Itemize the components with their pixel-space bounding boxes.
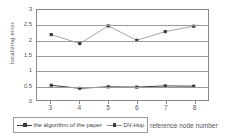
chart-legend: the algorithm of the paper DV-Hop bbox=[13, 117, 148, 133]
gridline bbox=[37, 87, 208, 88]
data-point-marker bbox=[164, 30, 167, 33]
y-tick-label: 1.5 bbox=[16, 52, 32, 58]
legend-item-dvhop: DV-Hop bbox=[107, 122, 145, 129]
gridline bbox=[37, 56, 208, 57]
gridline bbox=[37, 71, 208, 72]
x-tick-label: 6 bbox=[130, 104, 144, 112]
legend-marker-icon-paper bbox=[17, 122, 32, 129]
data-point-marker bbox=[50, 33, 53, 36]
y-tick-label: 2.5 bbox=[16, 21, 32, 27]
x-tick-label: 8 bbox=[188, 104, 202, 112]
x-tick-label: 5 bbox=[101, 104, 115, 112]
y-tick-label: 0.5 bbox=[16, 83, 32, 89]
gridline bbox=[37, 41, 208, 42]
plot-area bbox=[36, 9, 209, 101]
x-tick-label: 4 bbox=[72, 104, 86, 112]
legend-item-paper: the algorithm of the paper bbox=[17, 122, 102, 129]
data-point-marker bbox=[78, 42, 81, 45]
localizing-error-line-chart: localizing error 00.511.522.53 345678 re… bbox=[0, 0, 244, 138]
gridline bbox=[37, 25, 208, 26]
y-tick-label: 2 bbox=[16, 37, 32, 43]
legend-marker-icon-dvhop bbox=[107, 122, 122, 129]
x-tick-label: 7 bbox=[159, 104, 173, 112]
x-tick-label: 3 bbox=[43, 104, 57, 112]
y-tick-label: 1 bbox=[16, 67, 32, 73]
y-tick-label: 0 bbox=[16, 98, 32, 104]
x-axis-tick-labels: 345678 bbox=[36, 104, 209, 114]
legend-label-paper: the algorithm of the paper bbox=[34, 122, 102, 129]
legend-label-dvhop: DV-Hop bbox=[123, 122, 144, 129]
y-tick-label: 3 bbox=[16, 6, 32, 12]
x-axis-title: reference node number bbox=[150, 121, 218, 130]
